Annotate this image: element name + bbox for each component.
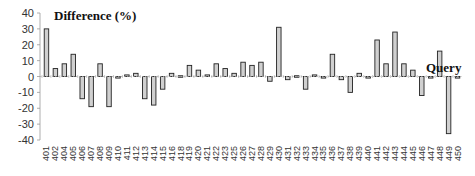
bar-422: [214, 64, 218, 77]
bar-426: [241, 62, 245, 76]
bar-415: [160, 77, 164, 90]
bars: [44, 27, 460, 133]
bar-437: [339, 77, 343, 80]
chart-title: Difference (%): [54, 8, 136, 23]
y-tick-label: -30: [18, 118, 34, 130]
bar-430: [277, 27, 281, 76]
y-tick-label: 30: [22, 23, 34, 35]
bar-416: [169, 73, 173, 76]
bar-428: [259, 62, 263, 76]
bar-441: [375, 40, 379, 77]
bar-445: [411, 70, 415, 76]
y-tick-label: -10: [18, 86, 34, 98]
bar-429: [268, 77, 272, 82]
bar-444: [402, 64, 406, 77]
bar-414: [151, 77, 155, 106]
bar-423: [223, 69, 227, 77]
bar-436: [330, 54, 334, 76]
y-tick-label: 10: [22, 55, 34, 67]
bar-406: [80, 77, 84, 99]
y-axis: 403020100-10-20-30-40: [18, 7, 40, 146]
bar-402: [53, 69, 57, 77]
bar-412: [134, 73, 138, 76]
y-tick-label: -40: [18, 134, 34, 146]
bar-404: [62, 64, 66, 77]
x-tick-label: 450: [453, 146, 463, 161]
y-tick-label: 40: [22, 7, 34, 19]
bar-438: [348, 77, 352, 93]
bar-425: [232, 73, 236, 76]
bar-408: [98, 64, 102, 77]
bar-443: [393, 32, 397, 76]
y-tick-label: -20: [18, 102, 34, 114]
bar-431: [286, 77, 290, 80]
bar-433: [303, 77, 307, 90]
difference-bar-chart: 403020100-10-20-30-40 401402404405406407…: [0, 0, 475, 176]
y-tick-label: 20: [22, 39, 34, 51]
bar-420: [196, 70, 200, 76]
bar-449: [446, 77, 450, 134]
bar-419: [187, 65, 191, 76]
bar-409: [107, 77, 111, 107]
bar-407: [89, 77, 93, 107]
bar-413: [143, 77, 147, 99]
bar-401: [44, 29, 48, 77]
bar-427: [250, 65, 254, 76]
bar-446: [420, 77, 424, 96]
x-axis: 4014024044054064074084094104114124134144…: [40, 75, 463, 161]
query-annotation: Query: [426, 60, 462, 75]
bar-442: [384, 64, 388, 77]
bar-439: [357, 73, 361, 76]
bar-405: [71, 54, 75, 76]
y-tick-label: 0: [28, 71, 34, 83]
